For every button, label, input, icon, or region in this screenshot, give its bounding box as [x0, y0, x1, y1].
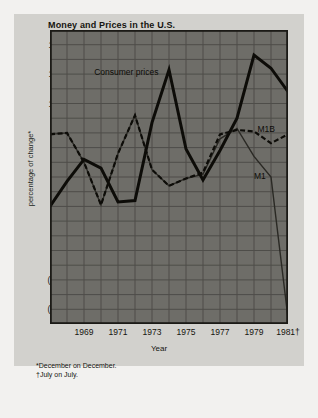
- x-axis-label: Year: [14, 344, 304, 353]
- x-tick-label: 1969: [75, 327, 94, 337]
- footnote-july: †July on July.: [36, 371, 78, 378]
- x-tick-label: 1975: [177, 327, 196, 337]
- series-label-m1: M1: [254, 171, 266, 181]
- x-tick-label: 1973: [143, 327, 162, 337]
- x-tick-label: 1981†: [276, 327, 300, 337]
- plot-area: Consumer pricesM1BM1: [50, 30, 288, 324]
- x-tick-label: 1971: [109, 327, 128, 337]
- chart-title: Money and Prices in the U.S.: [48, 20, 175, 30]
- series-label-consumer-prices: Consumer prices: [94, 67, 158, 77]
- x-tick-label: 1977: [211, 327, 230, 337]
- chart-card: Money and Prices in the U.S. percentage …: [14, 14, 304, 366]
- footnote-december: *December on December.: [36, 362, 117, 369]
- x-tick-label: 1979: [245, 327, 264, 337]
- y-axis-label: percentage of change*: [26, 109, 35, 229]
- chart-svg: [50, 30, 288, 324]
- series-label-m1b: M1B: [257, 124, 274, 134]
